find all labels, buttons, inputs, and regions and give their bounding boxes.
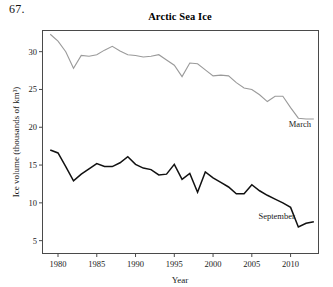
figure-container: 67. Arctic Sea Ice 51015202530 198019851… xyxy=(0,0,333,287)
y-tick-label: 25 xyxy=(29,84,38,94)
y-tick-label: 10 xyxy=(29,198,38,208)
y-tick-label: 30 xyxy=(29,47,38,57)
y-axis-title: Ice volume (thousands of km³) xyxy=(11,87,21,198)
x-tick-label: 1995 xyxy=(166,259,183,269)
x-tick-label: 1990 xyxy=(127,259,144,269)
x-tick-label: 1980 xyxy=(50,259,67,269)
y-tick-label: 15 xyxy=(29,160,38,170)
series-annotations: MarchSeptember xyxy=(258,119,311,221)
x-tick-label: 2005 xyxy=(243,259,260,269)
y-axis-ticks: 51015202530 xyxy=(29,47,43,246)
x-axis-ticks: 1980198519901995200020052010 xyxy=(50,254,300,269)
series-label-september: September xyxy=(258,211,295,221)
y-tick-label: 5 xyxy=(33,236,37,246)
y-tick-label: 20 xyxy=(29,122,38,132)
x-axis-title: Year xyxy=(172,275,189,285)
line-chart-plot: 51015202530 1980198519901995200020052010… xyxy=(0,0,333,287)
data-series-group xyxy=(50,34,314,227)
series-label-march: March xyxy=(289,119,312,129)
x-tick-label: 2010 xyxy=(282,259,299,269)
x-tick-label: 1985 xyxy=(88,259,105,269)
x-tick-label: 2000 xyxy=(205,259,222,269)
series-line-march xyxy=(50,34,314,119)
